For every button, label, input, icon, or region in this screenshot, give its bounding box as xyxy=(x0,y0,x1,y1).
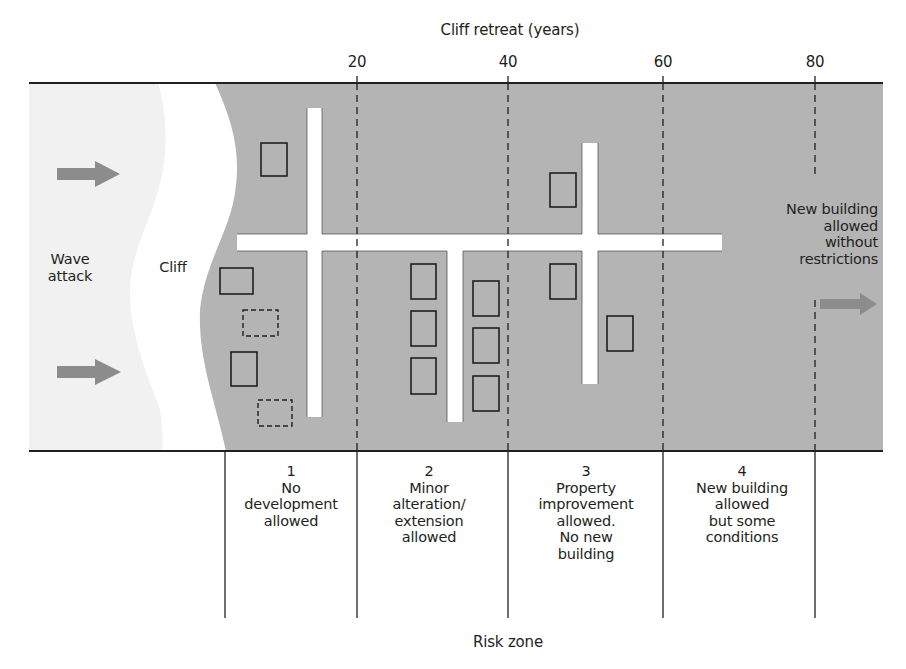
zone-text: alteration/ xyxy=(354,496,504,513)
risk-zone-3: 3 Property improvement allowed. No new b… xyxy=(511,463,661,562)
zone-text: but some xyxy=(667,513,817,530)
zone-number: 1 xyxy=(216,463,366,480)
zone-text: conditions xyxy=(667,529,817,546)
tick-20: 20 xyxy=(337,54,377,71)
zone-text: No new xyxy=(511,529,661,546)
zone-text: allowed xyxy=(667,496,817,513)
zone-number: 4 xyxy=(667,463,817,480)
zone-text: Minor xyxy=(354,480,504,497)
note-line: allowed xyxy=(740,218,878,235)
zone-text: development xyxy=(216,496,366,513)
tick-40: 40 xyxy=(488,54,528,71)
risk-zone-4: 4 New building allowed but some conditio… xyxy=(667,463,817,546)
axis-title: Cliff retreat (years) xyxy=(410,22,610,39)
zone-text: allowed. xyxy=(511,513,661,530)
wave-attack-label: Wave attack xyxy=(35,251,105,284)
zone-number: 2 xyxy=(354,463,504,480)
note-line: New building xyxy=(740,201,878,218)
zone-text: New building xyxy=(667,480,817,497)
zone-text: extension xyxy=(354,513,504,530)
zone-text: improvement xyxy=(511,496,661,513)
zone-text: Property xyxy=(511,480,661,497)
zone-text: allowed xyxy=(216,513,366,530)
risk-zone-2: 2 Minor alteration/ extension allowed xyxy=(354,463,504,546)
wave-attack-line: Wave xyxy=(35,251,105,268)
zone-text: No xyxy=(216,480,366,497)
tick-80: 80 xyxy=(795,54,835,71)
risk-zone-1: 1 No development allowed xyxy=(216,463,366,529)
zone-text: allowed xyxy=(354,529,504,546)
tick-60: 60 xyxy=(643,54,683,71)
risk-zone-title: Risk zone xyxy=(448,634,568,651)
note-line: without xyxy=(740,234,878,251)
zone-text: building xyxy=(511,546,661,563)
zone-number: 3 xyxy=(511,463,661,480)
unrestricted-building-note: New building allowed without restriction… xyxy=(740,201,878,267)
cliff-label: Cliff xyxy=(148,259,198,276)
note-line: restrictions xyxy=(740,251,878,268)
wave-attack-line: attack xyxy=(35,268,105,285)
coastal-risk-zone-diagram xyxy=(0,0,906,669)
